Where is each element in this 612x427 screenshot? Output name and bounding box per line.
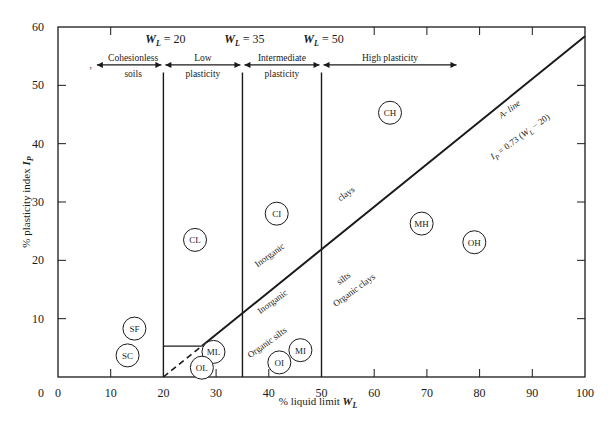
y-tick-label: 50 — [32, 78, 44, 92]
x-tick-label: 40 — [263, 386, 275, 400]
annotation-6: A- line — [496, 98, 522, 121]
tick-labels: 01020304050607080901000102030405060 — [32, 20, 594, 400]
soil-group-ci: CI — [265, 202, 288, 225]
x-tick-label: 80 — [474, 386, 486, 400]
soil-label: OH — [468, 238, 481, 248]
wl-label-35: WL = 35 — [224, 32, 264, 48]
annotation-3: silts — [335, 270, 353, 287]
x-tick-label: 20 — [157, 386, 169, 400]
soil-group-sf: SF — [123, 317, 146, 340]
soil-label: MH — [414, 219, 429, 229]
x-tick-label: 0 — [55, 386, 61, 400]
wl-label-20: WL = 20 — [145, 32, 185, 48]
wl-label-50: WL = 50 — [303, 32, 343, 48]
soil-group-ol: OL — [190, 356, 213, 379]
y-tick-label: 40 — [32, 137, 44, 151]
boundary-lines — [163, 73, 321, 378]
soil-group-cl: CL — [184, 228, 207, 251]
x-tick-label: 70 — [421, 386, 433, 400]
wl-labels: WL = 20WL = 35WL = 50 — [145, 32, 343, 48]
soil-label: MI — [295, 346, 306, 356]
soil-group-ch: CH — [379, 101, 402, 124]
soil-label: CL — [189, 235, 201, 245]
region-label: Cohesionless — [108, 53, 158, 63]
x-tick-label: 90 — [526, 386, 538, 400]
annotation-7: IP = 0.73 (WL − 20) — [488, 112, 554, 165]
region-arrows: CohesionlesssoilsLowplasticityIntermedia… — [89, 53, 456, 79]
x-tick-label: 60 — [368, 386, 380, 400]
soil-group-oi: OI — [268, 351, 291, 374]
annotation-0: Inorganic — [253, 241, 287, 269]
soil-label: SF — [129, 324, 139, 334]
y-tick-label: 10 — [32, 312, 44, 326]
a-line — [163, 36, 585, 377]
a-line-solid — [202, 36, 585, 346]
y-tick-label: 60 — [32, 20, 44, 34]
y-tick-label: 0 — [38, 386, 44, 400]
soil-label: SC — [122, 351, 133, 361]
region-label-line2: soils — [124, 69, 142, 79]
soil-group-oh: OH — [463, 231, 486, 254]
y-tick-label: 20 — [32, 253, 44, 267]
annotation-1: clays — [336, 184, 357, 203]
stray-mark: , — [89, 60, 91, 70]
region-label: Intermediate — [258, 53, 306, 63]
diagonal-annotations: InorganicclaysInorganicsiltsOrganic silt… — [246, 98, 554, 360]
x-tick-label: 10 — [105, 386, 117, 400]
soil-group-mh: MH — [410, 212, 433, 235]
region-label: High plasticity — [362, 53, 418, 63]
region-label-line2: plasticity — [186, 69, 221, 79]
soil-group-circles: SFSCCLMLOLCIMIOICHMHOH — [116, 101, 486, 379]
soil-group-mi: MI — [289, 339, 312, 362]
soil-label: CI — [272, 209, 281, 219]
x-tick-label: 100 — [576, 386, 594, 400]
soil-label: CH — [384, 108, 397, 118]
region-label-line2: plasticity — [265, 69, 300, 79]
soil-label: OL — [196, 363, 208, 373]
x-tick-label: 30 — [210, 386, 222, 400]
plasticity-chart: 01020304050607080901000102030405060 Cohe… — [0, 0, 612, 427]
soil-group-sc: SC — [116, 344, 139, 367]
y-tick-label: 30 — [32, 195, 44, 209]
soil-label: ML — [207, 347, 221, 357]
soil-label: OI — [275, 358, 285, 368]
region-label: Low — [194, 53, 212, 63]
x-axis-title: % liquid limit WL — [279, 395, 358, 410]
annotation-2: Inorganic — [255, 288, 289, 316]
